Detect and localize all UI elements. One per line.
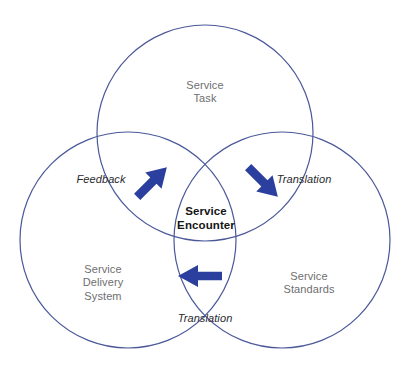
circle-service-task (97, 25, 313, 241)
venn-diagram-canvas (0, 0, 411, 383)
venn-diagram: Service Task Service Delivery System Ser… (0, 0, 411, 383)
translation-right-arrow (240, 159, 286, 205)
feedback-arrow (129, 159, 175, 205)
circle-service-standards (174, 132, 390, 348)
translation-bottom-arrow (178, 265, 222, 287)
circle-service-delivery-system (20, 132, 236, 348)
